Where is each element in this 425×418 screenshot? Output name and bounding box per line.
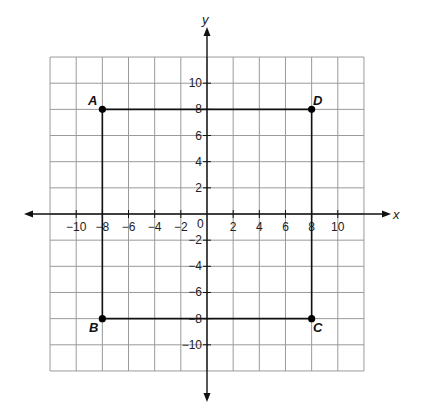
- y-tick-label: −4: [188, 259, 202, 273]
- x-axis-right-arrow-icon: [382, 211, 391, 218]
- y-axis-label: y: [201, 12, 210, 27]
- x-axis-left-arrow-icon: [24, 211, 33, 218]
- y-tick-label: −10: [182, 338, 203, 352]
- x-tick-label: 6: [282, 220, 289, 234]
- x-axis-label: x: [392, 207, 400, 222]
- y-tick-label: 2: [195, 181, 202, 195]
- x-tick-label: 4: [256, 220, 263, 234]
- point-a-label: A: [87, 93, 97, 108]
- point-c-label: C: [313, 320, 323, 335]
- point-a-dot: [99, 106, 106, 113]
- x-tick-label: −2: [174, 220, 188, 234]
- y-tick-label: 10: [189, 76, 203, 90]
- x-tick-label: −6: [122, 220, 136, 234]
- x-tick-label: 2: [230, 220, 237, 234]
- y-tick-label: 6: [195, 129, 202, 143]
- point-b-dot: [99, 315, 106, 322]
- origin-label: 0: [197, 217, 204, 231]
- point-d-label: D: [313, 93, 323, 108]
- x-tick-label: −4: [148, 220, 162, 234]
- point-b-label: B: [89, 320, 98, 335]
- y-axis-down-arrow-icon: [204, 393, 211, 402]
- y-tick-label: −6: [188, 285, 202, 299]
- y-axis-up-arrow-icon: [204, 27, 211, 36]
- x-tick-label: 10: [331, 220, 345, 234]
- x-tick-label: −10: [66, 220, 87, 234]
- y-tick-label: 4: [195, 155, 202, 169]
- y-tick-label: −2: [188, 233, 202, 247]
- coordinate-plane: −10−8−6−4−2246810108642−2−4−6−8−10 x y 0…: [0, 0, 425, 418]
